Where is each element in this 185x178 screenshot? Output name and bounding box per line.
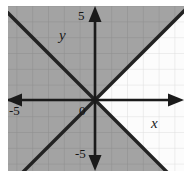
y-axis-tick-label-5: 5: [78, 9, 85, 22]
coordinate-plane-figure: y x 5 -5 0 -5: [0, 0, 185, 178]
x-axis-tick-label-negative-5: -5: [9, 104, 20, 117]
x-axis-label: x: [151, 116, 158, 131]
y-axis-label: y: [59, 28, 66, 43]
y-axis-tick-label-negative-5: -5: [75, 147, 86, 160]
origin-tick-label-0: 0: [79, 104, 86, 117]
coordinate-plane-graphic: [0, 0, 185, 178]
